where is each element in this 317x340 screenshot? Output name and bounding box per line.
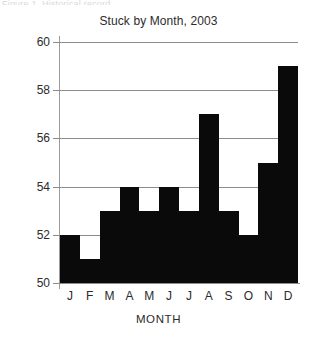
- bar-J-5: [159, 187, 179, 283]
- bar-A-7: [199, 114, 219, 283]
- y-axis-label-54: 54: [18, 180, 50, 194]
- x-axis-label-8-S: S: [219, 289, 239, 303]
- bar-F-1: [80, 259, 100, 283]
- bar-D-11: [278, 66, 298, 283]
- y-axis-label-60: 60: [18, 35, 50, 49]
- x-axis-label-2-M: M: [100, 289, 120, 303]
- y-axis-label-58: 58: [18, 83, 50, 97]
- bar-A-3: [120, 187, 139, 283]
- x-axis-title: MONTH: [0, 313, 317, 325]
- y-axis-label-52: 52: [18, 228, 50, 242]
- chart-title: Stuck by Month, 2003: [0, 14, 317, 28]
- x-axis-label-7-A: A: [199, 289, 219, 303]
- x-axis-label-4-M: M: [139, 289, 159, 303]
- bar-N-10: [258, 163, 278, 284]
- x-axis-label-6-J: J: [179, 289, 199, 303]
- plot-area: [60, 42, 298, 283]
- x-axis-label-3-A: A: [119, 289, 139, 303]
- bar-M-4: [139, 211, 159, 283]
- x-axis-label-5-J: J: [159, 289, 179, 303]
- bar-J-6: [179, 211, 199, 283]
- bar-chart-figure: Stuck by Month, 2003 505254565860 JFMAMJ…: [0, 0, 317, 340]
- x-axis-label-11-D: D: [278, 289, 298, 303]
- y-axis-label-56: 56: [18, 131, 50, 145]
- x-axis-label-0-J: J: [60, 289, 80, 303]
- x-axis-label-9-O: O: [238, 289, 258, 303]
- x-axis-label-1-F: F: [80, 289, 100, 303]
- bar-O-9: [239, 235, 258, 283]
- bar-J-0: [60, 235, 80, 283]
- bar-M-2: [100, 211, 120, 283]
- bar-S-8: [219, 211, 239, 283]
- x-axis-line: [60, 283, 300, 284]
- y-axis-label-50: 50: [18, 276, 50, 290]
- x-axis-label-10-N: N: [258, 289, 278, 303]
- bars-group: [60, 42, 298, 283]
